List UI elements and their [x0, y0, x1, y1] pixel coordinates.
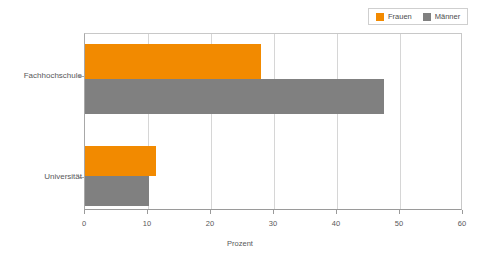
- bar-chart: Frauen Männer Fachhochschule Universität…: [0, 0, 480, 267]
- xtick-label-30: 30: [269, 219, 277, 228]
- gridline-30: [274, 34, 275, 209]
- legend-swatch-maenner: [423, 13, 431, 21]
- xtick-mark-60: [462, 210, 463, 214]
- xtick-mark-50: [399, 210, 400, 214]
- gridline-50: [400, 34, 401, 209]
- legend-swatch-frauen: [376, 13, 384, 21]
- xtick-label-50: 50: [395, 219, 403, 228]
- bar-universitaet-frauen: [85, 146, 156, 176]
- bar-fachhochschule-frauen: [85, 44, 261, 79]
- legend-item-maenner: Männer: [423, 13, 460, 21]
- x-axis-title: Prozent: [0, 239, 480, 248]
- xtick-mark-10: [147, 210, 148, 214]
- plot-area: [84, 33, 462, 210]
- xtick-mark-40: [336, 210, 337, 214]
- xtick-mark-0: [84, 210, 85, 214]
- xtick-label-40: 40: [332, 219, 340, 228]
- gridline-40: [337, 34, 338, 209]
- xtick-label-0: 0: [82, 219, 86, 228]
- xtick-label-60: 60: [458, 219, 466, 228]
- xtick-label-10: 10: [143, 219, 151, 228]
- bar-universitaet-maenner: [85, 176, 149, 206]
- legend-item-frauen: Frauen: [376, 13, 412, 21]
- xtick-mark-20: [210, 210, 211, 214]
- legend-label-maenner: Männer: [435, 13, 460, 21]
- category-label-fachhochschule: Fachhochschule: [24, 71, 82, 81]
- category-label-universitaet: Universität: [44, 172, 82, 182]
- legend-label-frauen: Frauen: [388, 13, 412, 21]
- chart-legend: Frauen Männer: [368, 8, 468, 25]
- xtick-label-20: 20: [206, 219, 214, 228]
- bar-fachhochschule-maenner: [85, 79, 384, 114]
- xtick-mark-30: [273, 210, 274, 214]
